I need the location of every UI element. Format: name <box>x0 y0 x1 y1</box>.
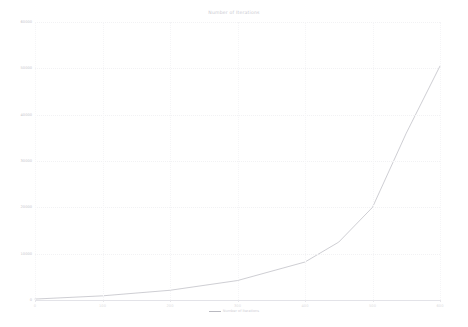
x-axis-tick-mark <box>373 300 374 302</box>
x-axis-tick-mark <box>305 300 306 302</box>
x-axis-tick-label: 100 <box>99 304 106 308</box>
gridline-vertical <box>238 22 240 300</box>
gridline-vertical <box>440 22 442 300</box>
gridline-vertical <box>103 22 105 300</box>
gridline-vertical <box>305 22 307 300</box>
y-axis-tick-label: 40000 <box>2 113 32 117</box>
gridline-vertical <box>373 22 375 300</box>
legend: Number of Iterations <box>0 309 468 313</box>
page-title: Number of Iterations <box>0 10 468 15</box>
x-axis-tick-mark <box>35 300 36 302</box>
y-axis-tick-label: 50000 <box>2 66 32 70</box>
x-axis-tick-label: 600 <box>437 304 444 308</box>
plot-area <box>35 22 440 300</box>
y-axis-tick-label: 10000 <box>2 252 32 256</box>
x-axis-tick-mark <box>170 300 171 302</box>
line-swatch-icon <box>209 311 221 312</box>
legend-item-label: Number of Iterations <box>223 309 259 313</box>
x-axis-tick-label: 200 <box>167 304 174 308</box>
y-axis-tick-label: 30000 <box>2 159 32 163</box>
x-axis-tick-mark <box>103 300 104 302</box>
x-axis-tick-mark <box>238 300 239 302</box>
x-axis-tick-label: 300 <box>234 304 241 308</box>
y-axis-tick-label: 60000 <box>2 20 32 24</box>
y-axis-tick-label: 20000 <box>2 205 32 209</box>
x-axis-tick-mark <box>440 300 441 302</box>
y-axis-tick-labels: 0100002000030000400005000060000 <box>0 22 32 300</box>
x-axis-tick-label: 400 <box>302 304 309 308</box>
x-axis-tick-label: 0 <box>34 304 36 308</box>
y-axis-tick-label: 0 <box>2 298 32 302</box>
x-axis-tick-label: 500 <box>369 304 376 308</box>
gridline-vertical <box>35 22 37 300</box>
gridline-vertical <box>170 22 172 300</box>
chart-figure: Number of Iterations 0100002000030000400… <box>0 0 468 327</box>
